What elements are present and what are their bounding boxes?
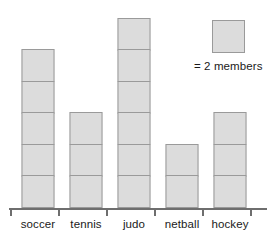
unit-square	[70, 175, 103, 208]
x-axis-tick	[106, 210, 108, 216]
unit-square	[22, 112, 55, 145]
x-axis-label-netball: netball	[158, 218, 206, 230]
x-axis-line	[9, 208, 267, 210]
x-axis-tick	[250, 210, 252, 216]
bar-stack	[118, 20, 151, 208]
x-axis-tick	[154, 210, 156, 216]
bar-column	[158, 0, 206, 209]
bar-column	[14, 0, 62, 209]
unit-square	[214, 144, 247, 177]
gray-square-icon	[212, 20, 245, 53]
unit-square	[166, 144, 199, 177]
bar-stack	[214, 114, 247, 208]
bar-stack	[70, 114, 103, 208]
unit-square	[214, 112, 247, 145]
x-axis-tick	[10, 210, 12, 216]
x-axis-label-judo: judo	[110, 218, 158, 230]
bar-stack	[166, 145, 199, 208]
unit-square	[70, 112, 103, 145]
x-axis-label-hockey: hockey	[206, 218, 254, 230]
bar-column	[110, 0, 158, 209]
bar-column	[62, 0, 110, 209]
unit-square	[22, 175, 55, 208]
unit-square	[118, 81, 151, 114]
unit-square	[118, 144, 151, 177]
unit-square	[22, 49, 55, 82]
pictogram-chart: = 2 members soccertennisjudonetballhocke…	[0, 0, 276, 239]
x-axis-label-tennis: tennis	[62, 218, 110, 230]
x-axis-tick	[202, 210, 204, 216]
unit-square	[22, 144, 55, 177]
unit-square	[70, 144, 103, 177]
x-axis-tick	[58, 210, 60, 216]
unit-square	[118, 18, 151, 51]
legend-label: = 2 members	[194, 60, 263, 72]
unit-square	[214, 175, 247, 208]
unit-square	[22, 81, 55, 114]
x-axis-label-soccer: soccer	[14, 218, 62, 230]
unit-square	[166, 175, 199, 208]
unit-square	[118, 175, 151, 208]
unit-square	[118, 49, 151, 82]
bar-stack	[22, 51, 55, 208]
unit-square	[118, 112, 151, 145]
